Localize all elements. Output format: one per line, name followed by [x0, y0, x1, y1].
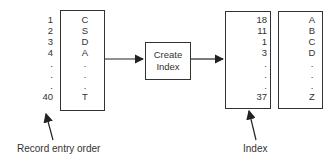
index-pointer: .	[247, 58, 267, 69]
record-number: 40	[33, 91, 53, 102]
record-number: .	[33, 80, 53, 91]
data-key-column: C S D A . . . T	[78, 14, 92, 102]
index-pointer: 3	[247, 47, 267, 58]
index-pointer: 11	[247, 25, 267, 36]
data-key: C	[78, 14, 92, 25]
data-key: .	[78, 58, 92, 69]
index-key: C	[305, 36, 319, 47]
index-key: .	[305, 58, 319, 69]
record-number: 4	[33, 47, 53, 58]
index-pointer: 1	[247, 36, 267, 47]
data-key: A	[78, 47, 92, 58]
index-key-column: A B C D . . . Z	[305, 14, 319, 102]
record-number: 1	[33, 14, 53, 25]
index-key: .	[305, 69, 319, 80]
data-key: D	[78, 36, 92, 47]
index-key: .	[305, 80, 319, 91]
index-key: B	[305, 25, 319, 36]
index-pointer: 37	[247, 91, 267, 102]
record-number: 2	[33, 25, 53, 36]
record-entry-order-label: Record entry order	[17, 143, 100, 154]
index-key: Z	[305, 91, 319, 102]
arrow-index-label	[249, 111, 256, 140]
record-number-column: 1 2 3 4 . . . 40	[33, 14, 53, 102]
index-key: A	[305, 14, 319, 25]
index-pointer: .	[247, 80, 267, 91]
index-pointer-column: 18 11 1 3 . . . 37	[247, 14, 267, 102]
index-key: D	[305, 47, 319, 58]
data-key: .	[78, 69, 92, 80]
index-pointer: .	[247, 69, 267, 80]
index-label: Index	[243, 143, 267, 154]
data-key: T	[78, 91, 92, 102]
data-key: S	[78, 25, 92, 36]
process-label: Index	[156, 61, 179, 73]
record-number: 3	[33, 36, 53, 47]
arrow-record-order	[46, 114, 53, 140]
index-pointer: 18	[247, 14, 267, 25]
process-label: Create	[154, 49, 183, 61]
record-number: .	[33, 58, 53, 69]
create-index-process-box: Create Index	[145, 42, 191, 80]
record-number: .	[33, 69, 53, 80]
data-key: .	[78, 80, 92, 91]
